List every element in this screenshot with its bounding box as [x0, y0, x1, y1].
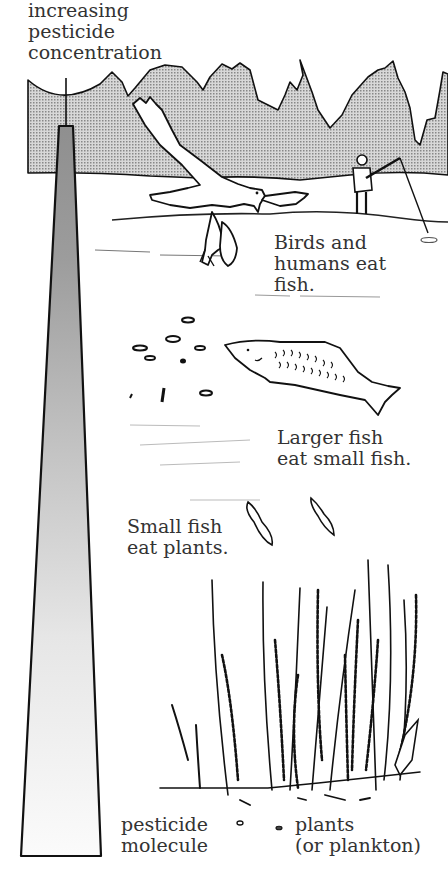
larger-fish-label: Larger fish eat small fish.	[277, 427, 411, 469]
concentration-label-line-1: increasing	[28, 0, 162, 21]
concentration-label: increasing pesticide concentration	[28, 0, 162, 63]
legend-pesticide-line-2: molecule	[121, 835, 208, 856]
large-fish-icon	[225, 341, 400, 415]
small-fish-pair	[247, 498, 334, 545]
concentration-column	[21, 78, 101, 856]
birds-humans-line-3: fish.	[274, 274, 386, 295]
birds-humans-label: Birds and humans eat fish.	[274, 232, 386, 295]
legend-plants-line-2: (or plankton)	[295, 835, 421, 856]
legend-plants: plants (or plankton)	[295, 814, 421, 856]
concentration-label-line-3: concentration	[28, 42, 162, 63]
plants-icon	[160, 560, 420, 805]
mountains	[28, 60, 448, 180]
legend-pesticide-line-1: pesticide	[121, 814, 208, 835]
legend-pesticide-molecule: pesticide molecule	[121, 814, 208, 856]
small-fish-label: Small fish eat plants.	[127, 516, 228, 558]
small-fish-line-2: eat plants.	[127, 537, 228, 558]
birds-humans-line-2: humans eat	[274, 253, 386, 274]
concentration-label-line-2: pesticide	[28, 21, 162, 42]
birds-humans-line-1: Birds and	[274, 232, 386, 253]
larger-fish-line-2: eat small fish.	[277, 448, 411, 469]
legend-symbols	[237, 821, 282, 830]
legend-plants-line-1: plants	[295, 814, 421, 835]
larger-fish-line-1: Larger fish	[277, 427, 411, 448]
small-fish-school	[130, 318, 212, 403]
plant-symbol	[276, 826, 282, 830]
small-fish-line-1: Small fish	[127, 516, 228, 537]
pesticide-molecule-symbol	[237, 821, 243, 825]
